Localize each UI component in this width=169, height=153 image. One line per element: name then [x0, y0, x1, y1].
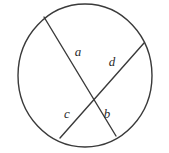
geometry-figure: a d c b [0, 0, 169, 153]
figure-canvas [0, 0, 169, 153]
circle-outline [18, 4, 152, 147]
chord-upper-left-to-lower-right [44, 17, 116, 136]
chord-upper-right-to-lower-left [60, 43, 144, 138]
